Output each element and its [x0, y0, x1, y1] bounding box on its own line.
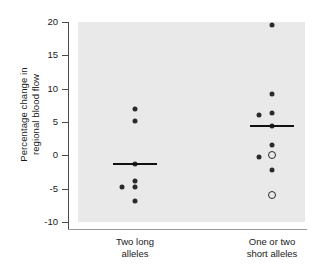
x-axis-label-group-1: Two long alleles	[80, 236, 190, 259]
y-tick-label--5: -5	[18, 183, 58, 194]
data-point	[270, 168, 275, 173]
y-tick-15	[62, 55, 68, 56]
x-axis-line	[68, 229, 307, 230]
data-point	[257, 113, 262, 118]
y-tick--5	[62, 189, 68, 190]
group-mean-line	[250, 125, 294, 127]
data-point	[133, 118, 138, 123]
y-tick-label-20: 20	[18, 16, 58, 27]
data-point	[133, 178, 138, 183]
data-point	[133, 106, 138, 111]
group-mean-line	[113, 163, 157, 165]
y-tick--10	[62, 222, 68, 223]
data-point	[133, 199, 138, 204]
y-tick-0	[62, 155, 68, 156]
y-tick-5	[62, 122, 68, 123]
y-axis-line	[68, 22, 69, 229]
y-tick-10	[62, 89, 68, 90]
scatter-plot-figure: Percentage change in regional blood flow…	[0, 0, 318, 266]
data-point	[268, 151, 276, 159]
data-point	[270, 111, 275, 116]
data-point	[257, 154, 262, 159]
data-point	[270, 142, 275, 147]
data-point	[120, 185, 125, 190]
y-tick-label--10: -10	[18, 216, 58, 227]
y-tick-label-5: 5	[18, 116, 58, 127]
y-tick-label-0: 0	[18, 149, 58, 160]
data-point	[133, 185, 138, 190]
y-tick-20	[62, 22, 68, 23]
data-point	[270, 92, 275, 97]
y-tick-label-15: 15	[18, 49, 58, 60]
x-axis-label-group-2: One or two short alleles	[217, 236, 318, 259]
y-tick-label-10: 10	[18, 83, 58, 94]
data-point	[268, 191, 276, 199]
data-point	[270, 23, 275, 28]
